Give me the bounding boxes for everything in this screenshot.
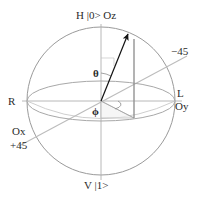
label-oy-axis: Oy [175, 101, 188, 112]
label-right-circular-r: R [8, 96, 15, 107]
theta-arc [101, 73, 111, 76]
state-vector-arrow [101, 34, 128, 101]
phi-arc [115, 101, 121, 109]
bloch-sphere-figure: H |0> Oz V |1> R L Oy −45 Ox +45 θ ϕ [0, 0, 200, 201]
label-phi-angle: ϕ [92, 106, 99, 117]
label-north-pole: H |0> Oz [76, 10, 116, 21]
theta-right-angle-marker [101, 58, 114, 66]
label-plus-45: +45 [10, 140, 27, 151]
label-theta-angle: θ [93, 68, 99, 79]
sphere-drawing [0, 0, 200, 201]
label-south-pole: V |1> [84, 180, 108, 191]
label-minus-45: −45 [171, 46, 188, 57]
label-ox-axis: Ox [12, 126, 25, 137]
label-left-circular-l: L [177, 88, 184, 99]
